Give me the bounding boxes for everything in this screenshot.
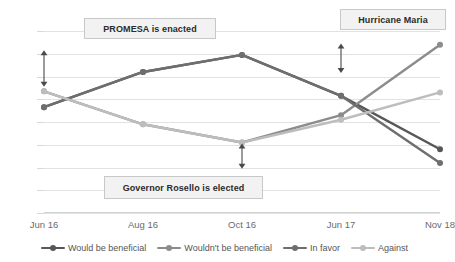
x-axis-tick-label: Oct 16 — [228, 219, 256, 230]
legend-marker-icon — [41, 244, 65, 253]
y-axis-tick-mark — [37, 99, 44, 100]
y-axis-tick-mark — [37, 168, 44, 169]
legend-label: In favor — [310, 243, 340, 253]
annotation-arrow-governor-rosello — [239, 144, 246, 169]
legend-item-4[interactable]: Against — [351, 243, 408, 253]
x-axis-tick-label: Jun 17 — [327, 219, 356, 230]
annotation-governor-rosello: Governor Rosello is elected — [104, 176, 263, 199]
y-axis-tick-mark — [37, 77, 44, 78]
y-axis-tick-mark — [37, 213, 44, 214]
x-axis-tick-label: Jun 16 — [30, 219, 59, 230]
legend-label: Wouldn't be beneficial — [184, 243, 272, 253]
annotation-promesa: PROMESA is enacted — [84, 18, 216, 39]
legend-label: Against — [378, 243, 408, 253]
legend-label: Would be beneficial — [68, 243, 146, 253]
gridline — [44, 213, 440, 214]
legend-marker-icon — [283, 244, 307, 253]
chart-legend: Would be beneficialWouldn't be beneficia… — [0, 243, 449, 253]
annotation-arrow-hurricane-maria — [338, 44, 345, 74]
x-axis-tick-label: Aug 16 — [128, 219, 158, 230]
y-axis-tick-mark — [37, 31, 44, 32]
legend-item-2[interactable]: Wouldn't be beneficial — [157, 243, 272, 253]
annotation-arrow-promesa — [41, 50, 48, 86]
legend-marker-icon — [351, 244, 375, 253]
x-axis-tick-label: Nov 18 — [425, 219, 455, 230]
y-axis-tick-mark — [37, 145, 44, 146]
annotation-hurricane-maria: Hurricane Maria — [340, 9, 446, 30]
legend-item-1[interactable]: Would be beneficial — [41, 243, 146, 253]
y-axis-tick-mark — [37, 122, 44, 123]
y-axis-tick-mark — [37, 190, 44, 191]
legend-marker-icon — [157, 244, 181, 253]
legend-item-3[interactable]: In favor — [283, 243, 340, 253]
